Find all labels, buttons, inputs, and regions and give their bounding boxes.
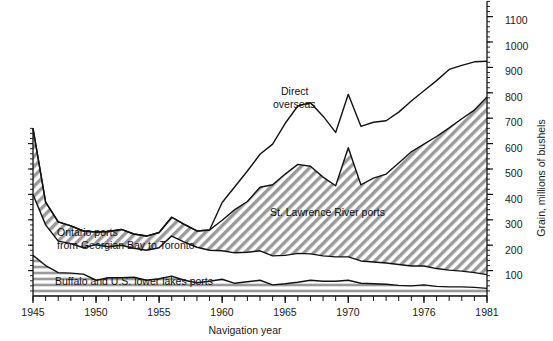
y-tick-200: 200: [505, 244, 523, 256]
x-tick-1981: 1981: [475, 306, 499, 318]
y-tick-500: 500: [505, 167, 523, 179]
st-lawrence-label: St. Lawrence River ports: [270, 206, 385, 218]
x-axis-title: Navigation year: [209, 324, 282, 336]
ontario-label-line1: Ontario ports: [57, 226, 118, 238]
x-tick-1965: 1965: [273, 306, 297, 318]
x-tick-1945: 1945: [21, 306, 45, 318]
ontario-label-line2: from Georgian Bay to Toronto: [57, 239, 195, 251]
y-tick-700: 700: [505, 116, 523, 128]
direct-overseas-label-line2: overseas: [273, 98, 316, 110]
direct-overseas-label-line1: Direct: [281, 85, 309, 97]
y-tick-600: 600: [505, 142, 523, 154]
x-tick-labels: 1945 1950 1955 1960 1965 1970 1976 1981: [21, 306, 499, 318]
chart-container: Direct overseas St. Lawrence River ports…: [0, 0, 553, 341]
y-tick-labels: 100 200 300 400 500 600 700 800 900 1000…: [505, 14, 529, 281]
series-label-direct-overseas: Direct overseas: [273, 85, 316, 110]
y-tick-1100: 1100: [505, 14, 528, 26]
y-tick-300: 300: [505, 218, 523, 230]
y-tick-1000: 1000: [505, 40, 529, 52]
buffalo-label: Buffalo and U.S. lower lakes ports: [55, 275, 213, 287]
x-tick-1970: 1970: [336, 306, 360, 318]
y-tick-800: 800: [505, 91, 523, 103]
y-tick-100: 100: [505, 269, 523, 281]
y-tick-900: 900: [505, 65, 523, 77]
x-tick-1976: 1976: [412, 306, 436, 318]
series-label-st-lawrence: St. Lawrence River ports: [270, 206, 385, 218]
x-tick-1950: 1950: [84, 306, 108, 318]
plot-areas: [33, 61, 487, 296]
grain-shipments-area-chart: Direct overseas St. Lawrence River ports…: [0, 0, 553, 341]
y-tick-400: 400: [505, 193, 523, 205]
y-axis-title: Grain, millions of bushels: [535, 119, 547, 236]
series-label-buffalo: Buffalo and U.S. lower lakes ports: [55, 275, 213, 287]
x-tick-1955: 1955: [147, 306, 171, 318]
x-tick-1960: 1960: [210, 306, 234, 318]
